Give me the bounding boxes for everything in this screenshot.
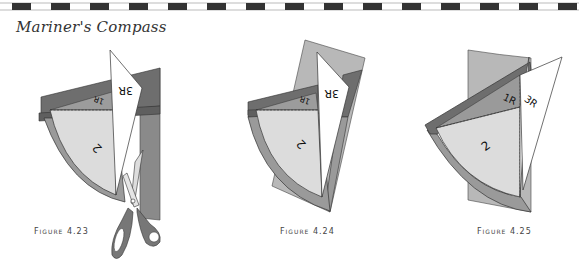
figure-caption-4-23: Figure 4.23 <box>34 227 89 236</box>
figure-caption-4-24: Figure 4.24 <box>280 227 335 236</box>
figure-4-25: 1R 3R 2 <box>425 50 562 212</box>
figure-caption-4-25: Figure 4.25 <box>477 227 532 236</box>
label-3r: 3R <box>118 84 133 97</box>
figure-4-24: 3R 1R 2 <box>248 40 365 212</box>
label-3r: 3R <box>324 87 339 100</box>
